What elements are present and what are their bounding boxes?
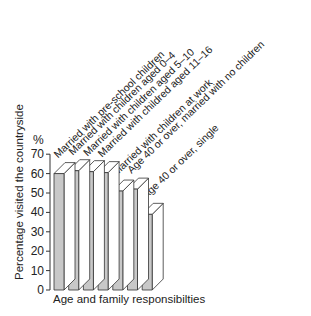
y-tick-label: 50	[31, 186, 45, 200]
x-axis-title: Age and family responsibilties	[53, 293, 205, 305]
y-tick-label: 10	[31, 264, 45, 278]
bar	[54, 163, 75, 290]
bar-chart: 010203040506070%Percentage visited the c…	[0, 0, 311, 316]
y-tick-label: 60	[31, 167, 45, 181]
y-unit: %	[33, 133, 44, 147]
y-tick-label: 30	[31, 225, 45, 239]
y-tick-label: 70	[31, 147, 45, 161]
y-axis-title: Percentage visited the countryside	[13, 104, 25, 280]
y-tick-label: 0	[37, 283, 44, 297]
y-tick-label: 20	[31, 244, 45, 258]
y-tick-label: 40	[31, 205, 45, 219]
